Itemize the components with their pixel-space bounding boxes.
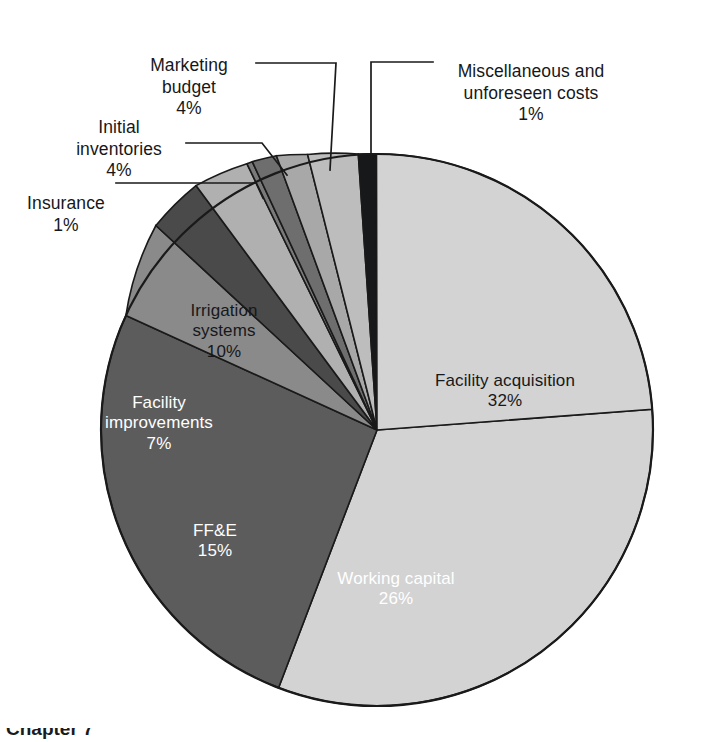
label-ffe-text: FF&E [193,521,237,540]
label-facility-improvements: Facility improvements 7% [84,372,234,476]
label-facility-improvements-percent: 7% [84,434,234,455]
callout-insurance-percent: 1% [16,215,116,236]
pie-chart-page: Marketing budget 4% Initial inventories … [0,0,703,742]
callout-initial-inventories-label: Initial inventories [76,117,162,158]
label-irrigation-systems-percent: 10% [160,342,288,363]
callout-insurance-label: Insurance [27,193,105,213]
callout-miscellaneous-label: Miscellaneous and unforeseen costs [458,61,605,102]
footer-cropped-text: Chapter 7 [0,728,703,742]
label-ffe-percent: 15% [160,541,270,562]
label-facility-acquisition-text: Facility acquisition [435,371,575,390]
label-irrigation-systems-text: Irrigation systems [190,301,257,341]
label-facility-acquisition: Facility acquisition 32% [410,350,600,433]
label-working-capital-percent: 26% [306,589,486,610]
callout-miscellaneous-percent: 1% [433,104,629,125]
callout-miscellaneous: Miscellaneous and unforeseen costs 1% [433,40,629,147]
label-facility-acquisition-percent: 32% [410,391,600,412]
callout-marketing-budget-label: Marketing budget [150,55,228,96]
label-irrigation-systems: Irrigation systems 10% [160,280,288,384]
label-working-capital: Working capital 26% [306,548,486,631]
label-working-capital-text: Working capital [337,569,454,588]
label-ffe: FF&E 15% [160,500,270,583]
leader-line-miscellaneous [371,62,433,160]
callout-insurance: Insurance 1% [16,172,116,257]
label-facility-improvements-text: Facility improvements [105,393,213,433]
